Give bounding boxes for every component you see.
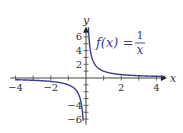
formula-denominator: x bbox=[137, 43, 144, 57]
x-tick-label: 4 bbox=[153, 82, 159, 93]
function-annotation: f(x) = 1 x bbox=[95, 29, 145, 57]
chart: −4−224642−4−6 x y f(x) = 1 x bbox=[0, 0, 183, 133]
y-tick-label: 6 bbox=[76, 31, 82, 42]
y-tick-label: 4 bbox=[76, 45, 82, 56]
x-tick-label: −2 bbox=[43, 82, 58, 93]
y-tick-label: −4 bbox=[67, 100, 82, 111]
y-axis-label: y bbox=[82, 14, 90, 27]
x-axis-label: x bbox=[170, 72, 177, 85]
x-tick-label: 2 bbox=[118, 82, 124, 93]
y-tick-label: 2 bbox=[76, 59, 82, 70]
formula-lhs: f(x) = bbox=[95, 35, 133, 50]
x-tick-label: −4 bbox=[8, 82, 23, 93]
y-tick-label: −6 bbox=[67, 114, 82, 125]
formula-numerator: 1 bbox=[137, 29, 144, 42]
